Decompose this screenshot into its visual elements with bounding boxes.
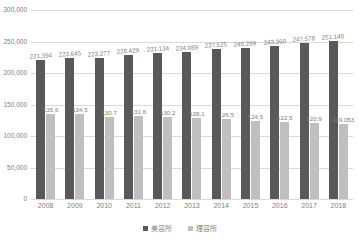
legend-swatch-icon (143, 226, 148, 231)
bar-group-2012: 231,134130,2 (148, 10, 177, 199)
bar-value-label: 223,645 (58, 49, 81, 58)
bar-value-label: 243,360 (263, 37, 286, 46)
x-axis-tick-2013: 2013 (177, 201, 206, 211)
bar-value-label: 135,6 (43, 106, 58, 113)
x-axis-tick-2014: 2014 (207, 201, 236, 211)
bar-美容所-2009[interactable]: 223,645 (65, 58, 74, 199)
bar-value-label: 120,9 (306, 115, 321, 122)
plot-area: 050,000100,000150,000200,000250,000300,0… (31, 10, 353, 199)
bar-value-label: 128,1 (189, 110, 204, 117)
y-axis-tick-label: 250,000 (4, 38, 28, 46)
bar-value-label: 228,429 (117, 46, 140, 55)
bar-group-2017: 247,578120,9 (294, 10, 323, 199)
bar-美容所-2010[interactable]: 223,277 (95, 58, 104, 199)
bar-group-2010: 223,277130,7 (90, 10, 119, 199)
bar-value-label: 131,6 (131, 108, 146, 115)
bar-value-label: 247,578 (292, 34, 315, 43)
bar-value-label: 124,5 (248, 113, 263, 120)
bar-理容所-2013[interactable]: 128,1 (192, 118, 201, 199)
x-axis-tick-2015: 2015 (236, 201, 265, 211)
x-axis-tick-2017: 2017 (294, 201, 323, 211)
clipped-title-sliver (236, 0, 340, 5)
bar-理容所-2018[interactable]: 119,053 (339, 124, 348, 199)
bar-group-2008: 221,394135,6 (31, 10, 60, 199)
bar-理容所-2010[interactable]: 130,7 (105, 117, 114, 199)
bar-value-label: 119,053 (332, 116, 354, 123)
bar-美容所-2015[interactable]: 240,299 (241, 48, 250, 199)
bar-美容所-2008[interactable]: 221,394 (36, 60, 45, 199)
y-axis-tick-label: 100,000 (4, 132, 28, 140)
x-axis-tick-2008: 2008 (31, 201, 60, 211)
bar-value-label: 237,525 (205, 41, 228, 50)
legend-label: 理容所 (196, 224, 217, 233)
x-axis-tick-2018: 2018 (324, 201, 353, 211)
bar-group-2013: 234,089128,1 (177, 10, 206, 199)
bar-理容所-2017[interactable]: 120,9 (310, 123, 319, 199)
bar-美容所-2013[interactable]: 234,089 (182, 52, 191, 199)
bar-value-label: 122,5 (277, 114, 292, 121)
x-axis-ticks: 2008200920102011201220132014201520162017… (31, 201, 353, 211)
bar-理容所-2008[interactable]: 135,6 (46, 114, 55, 199)
bar-group-2009: 223,645134,5 (60, 10, 89, 199)
x-axis-tick-2016: 2016 (265, 201, 294, 211)
bar-美容所-2014[interactable]: 237,525 (212, 49, 221, 199)
bar-value-label: 126,5 (218, 111, 233, 118)
bar-groups: 221,394135,6223,645134,5223,277130,7228,… (31, 10, 353, 199)
bar-value-label: 221,394 (29, 51, 52, 60)
bar-理容所-2009[interactable]: 134,5 (75, 114, 84, 199)
bar-value-label: 234,089 (175, 43, 198, 52)
bar-group-2015: 240,299124,5 (236, 10, 265, 199)
bar-理容所-2014[interactable]: 126,5 (222, 119, 231, 199)
y-axis-tick-label: 50,000 (7, 164, 27, 172)
bar-value-label: 130,7 (101, 109, 116, 116)
bar-value-label: 130,2 (160, 109, 175, 116)
x-axis-tick-2009: 2009 (60, 201, 89, 211)
bar-group-2011: 228,429131,6 (119, 10, 148, 199)
legend-swatch-icon (188, 226, 193, 231)
bar-group-2016: 243,360122,5 (265, 10, 294, 199)
bar-美容所-2012[interactable]: 231,134 (153, 53, 162, 199)
bar-value-label: 251,140 (322, 32, 345, 41)
bar-value-label: 231,134 (146, 45, 169, 54)
bar-value-label: 223,277 (88, 50, 111, 59)
y-axis-tick-label: 200,000 (4, 69, 28, 77)
legend-item-dark[interactable]: 美容所 (143, 224, 172, 233)
gridline (31, 199, 353, 200)
legend-item-light[interactable]: 理容所 (188, 224, 217, 233)
legend-label: 美容所 (151, 224, 172, 233)
x-axis-tick-2012: 2012 (148, 201, 177, 211)
chart-legend: 美容所理容所 (0, 224, 359, 233)
bar-理容所-2015[interactable]: 124,5 (251, 121, 260, 199)
bar-value-label: 134,5 (72, 106, 87, 113)
y-axis-tick-label: 150,000 (4, 101, 28, 109)
x-axis-tick-2011: 2011 (119, 201, 148, 211)
bar-理容所-2016[interactable]: 122,5 (280, 122, 289, 199)
bar-group-2014: 237,525126,5 (207, 10, 236, 199)
bar-理容所-2011[interactable]: 131,6 (134, 116, 143, 199)
bar-value-label: 240,299 (234, 39, 257, 48)
y-axis-tick-label: 0 (23, 195, 27, 203)
bar-group-2018: 251,140119,053 (324, 10, 353, 199)
y-axis-tick-label: 300,000 (4, 6, 28, 14)
bar-美容所-2016[interactable]: 243,360 (270, 46, 279, 199)
bar-理容所-2012[interactable]: 130,2 (163, 117, 172, 199)
x-axis-tick-2010: 2010 (90, 201, 119, 211)
bar-chart: 050,000100,000150,000200,000250,000300,0… (0, 0, 359, 243)
bar-美容所-2011[interactable]: 228,429 (124, 55, 133, 199)
